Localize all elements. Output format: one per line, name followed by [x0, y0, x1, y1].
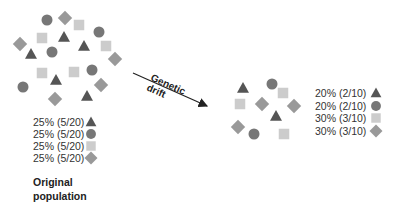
diamond-icon — [255, 97, 269, 111]
original-population-individuals — [13, 11, 122, 106]
circle-icon — [249, 129, 260, 140]
diamond-icon — [85, 152, 98, 165]
legend-label: 30% (3/10) — [315, 112, 366, 124]
diamond-icon — [13, 37, 27, 51]
diamond-icon — [231, 120, 245, 134]
legend-label: 25% (5/20) — [33, 152, 84, 164]
square-icon — [279, 129, 290, 140]
square-icon — [69, 67, 80, 78]
legend-label: 25% (5/20) — [33, 116, 84, 128]
diamond-icon — [94, 78, 108, 92]
circle-icon — [94, 27, 105, 38]
original-population-title: Original — [33, 176, 73, 188]
triangle-icon — [81, 90, 93, 101]
triangle-icon — [371, 88, 382, 98]
circle-icon — [42, 15, 53, 26]
triangle-icon — [78, 40, 90, 51]
triangle-icon — [270, 110, 282, 121]
square-icon — [101, 41, 112, 52]
diamond-icon — [48, 92, 62, 106]
circle-icon — [47, 47, 58, 58]
triangle-icon — [58, 31, 70, 42]
square-icon — [74, 20, 85, 31]
square-icon — [37, 33, 48, 44]
square-icon — [37, 68, 48, 79]
circle-icon — [86, 129, 96, 139]
diamond-icon — [108, 52, 122, 66]
square-icon — [86, 141, 95, 150]
legend-label: 25% (5/20) — [33, 128, 84, 140]
square-icon — [278, 88, 289, 99]
diamond-icon — [370, 125, 383, 138]
circle-icon — [18, 82, 29, 93]
diamond-icon — [287, 99, 301, 113]
triangle-icon — [25, 48, 37, 59]
triangle-icon — [50, 74, 62, 85]
circle-icon — [267, 79, 278, 90]
legend-label: 20% (2/10) — [315, 87, 366, 99]
legend-label: 20% (2/10) — [315, 100, 366, 112]
original-population-title: population — [33, 190, 87, 202]
drifted-legend: 20% (2/10) 20% (2/10) 30% (3/10) 30% (3/… — [315, 87, 366, 137]
genetic-drift-diagram: Genetic drift 25% (5/20) 25% (5/20) 25% … — [0, 0, 397, 211]
square-icon — [371, 113, 380, 122]
circle-icon — [371, 101, 381, 111]
drifted-population-individuals — [231, 79, 301, 140]
legend-label: 30% (3/10) — [315, 125, 366, 137]
circle-icon — [87, 65, 98, 76]
triangle-icon — [86, 117, 97, 127]
square-icon — [235, 99, 246, 110]
triangle-icon — [237, 82, 249, 93]
legend-label: 25% (5/20) — [33, 140, 84, 152]
diamond-icon — [58, 11, 72, 25]
original-legend: 25% (5/20) 25% (5/20) 25% (5/20) 25% (5/… — [33, 116, 84, 164]
